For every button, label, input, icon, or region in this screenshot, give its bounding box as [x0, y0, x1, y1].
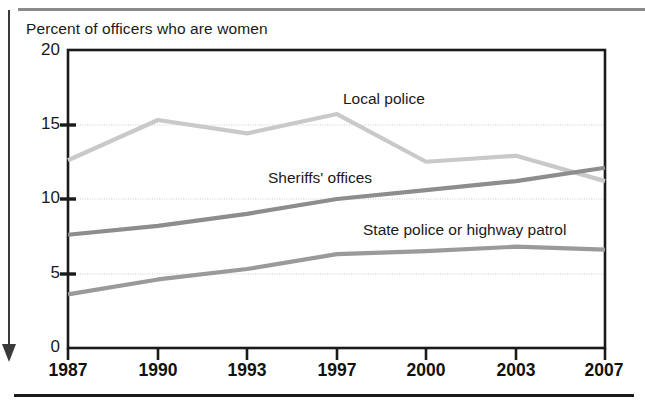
series-label-sheriffs-offices: Sheriffs' offices	[268, 169, 372, 187]
x-axis-ticks	[68, 348, 605, 360]
data-series-group	[68, 114, 605, 294]
x-tick-label-2007: 2007	[569, 360, 639, 381]
x-tick-label-1990: 1990	[123, 360, 193, 381]
x-tick-label-2000: 2000	[391, 360, 461, 381]
chart-plot-area	[0, 0, 645, 408]
x-tick-label-1993: 1993	[212, 360, 282, 381]
series-line-state-police-or-highway-patrol	[68, 247, 605, 295]
chart-page: Percent of officers who are women 20 15 …	[0, 0, 645, 408]
bottom-divider-rule	[14, 394, 634, 397]
x-tick-label-1987: 1987	[33, 360, 103, 381]
x-tick-label-2003: 2003	[481, 360, 551, 381]
series-label-local-police: Local police	[343, 90, 425, 108]
series-label-state-police: State police or highway patrol	[363, 221, 566, 239]
x-tick-label-1997: 1997	[302, 360, 372, 381]
